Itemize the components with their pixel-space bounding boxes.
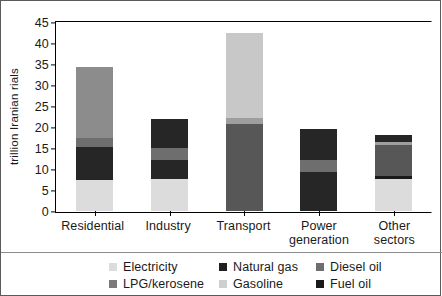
- bar-segment[interactable]: [300, 172, 337, 211]
- bar-segment[interactable]: [375, 145, 412, 176]
- legend-label: Natural gas: [233, 260, 298, 274]
- bar-segment[interactable]: [300, 129, 337, 160]
- legend-label: Diesel oil: [330, 260, 382, 274]
- legend-swatch-icon: [316, 280, 324, 288]
- y-tick-mark: [51, 169, 55, 170]
- bar-segment[interactable]: [76, 147, 113, 181]
- bar-slot: [282, 24, 357, 211]
- y-tick-mark: [51, 106, 55, 107]
- legend-swatch-icon: [219, 263, 227, 271]
- x-axis-label: Industry: [130, 216, 205, 256]
- x-axis-label-line: Residential: [55, 219, 130, 233]
- bar-slot: [356, 24, 431, 211]
- y-tick-mark: [51, 190, 55, 191]
- plot-box: [55, 21, 432, 213]
- x-axis-label-line: generation: [281, 233, 356, 247]
- x-axis-label: Residential: [55, 216, 130, 256]
- legend-item[interactable]: Fuel oil: [316, 277, 371, 291]
- stacked-bar[interactable]: [151, 119, 188, 210]
- stacked-bar[interactable]: [226, 33, 263, 211]
- bar-segment[interactable]: [151, 148, 188, 159]
- y-tick-mark: [51, 22, 55, 23]
- legend-item[interactable]: Electricity: [109, 260, 219, 274]
- bar-segment[interactable]: [151, 119, 188, 148]
- chart-plot-area: 051015202530354045: [55, 21, 432, 213]
- legend-row-2: LPG/keroseneGasolineFuel oil: [1, 275, 442, 292]
- stacked-bar[interactable]: [300, 129, 337, 210]
- bar-segment[interactable]: [76, 138, 113, 147]
- bar-segment[interactable]: [226, 124, 263, 211]
- bar-slot: [132, 24, 207, 211]
- bar-segment[interactable]: [375, 179, 412, 210]
- x-axis-label-line: Other: [357, 219, 432, 233]
- bar-segment[interactable]: [151, 160, 188, 179]
- bar-segment[interactable]: [300, 160, 337, 172]
- legend-label: Electricity: [123, 260, 178, 274]
- x-axis-label-line: Power: [281, 219, 356, 233]
- legend-label: Gasoline: [233, 277, 283, 291]
- y-tick-mark: [51, 64, 55, 65]
- legend-label: LPG/kerosene: [123, 277, 204, 291]
- legend-swatch-icon: [109, 280, 117, 288]
- x-axis-label-line: Industry: [130, 219, 205, 233]
- bar-segment[interactable]: [375, 135, 412, 142]
- y-axis-title-label: trillion Iranian rials: [8, 68, 20, 165]
- stacked-bar[interactable]: [375, 135, 412, 210]
- bar-segment[interactable]: [76, 67, 113, 138]
- legend-label: Fuel oil: [330, 277, 371, 291]
- legend-item[interactable]: LPG/kerosene: [109, 277, 219, 291]
- x-tick-mark: [394, 211, 395, 216]
- bar-slot: [58, 24, 133, 211]
- x-tick-mark: [244, 211, 245, 216]
- plot-inner: [58, 24, 432, 211]
- x-tick-mark: [319, 211, 320, 216]
- y-tick-mark: [51, 85, 55, 86]
- x-axis-label-line: Transport: [206, 219, 281, 233]
- legend-row-1: ElectricityNatural gasDiesel oil: [1, 258, 442, 275]
- y-tick-mark: [51, 148, 55, 149]
- legend-swatch-icon: [316, 263, 324, 271]
- x-axis-label: Transport: [206, 216, 281, 256]
- stacked-bar[interactable]: [76, 67, 113, 211]
- y-tick-mark: [51, 43, 55, 44]
- bar-segment[interactable]: [151, 179, 188, 211]
- legend-item[interactable]: Diesel oil: [316, 260, 382, 274]
- legend-swatch-icon: [219, 280, 227, 288]
- y-tick-mark: [51, 127, 55, 128]
- legend-item[interactable]: Gasoline: [219, 277, 316, 291]
- legend-item[interactable]: Natural gas: [219, 260, 316, 274]
- bar-segment[interactable]: [76, 180, 113, 210]
- legend-swatch-icon: [109, 263, 117, 271]
- x-tick-mark: [95, 211, 96, 216]
- bar-group: [58, 24, 432, 211]
- bar-segment[interactable]: [226, 33, 263, 118]
- x-tick-mark: [170, 211, 171, 216]
- y-tick-mark: [51, 211, 55, 212]
- y-axis-title: trillion Iranian rials: [7, 21, 21, 213]
- x-axis-label-line: sectors: [357, 233, 432, 247]
- x-axis-label: Powergeneration: [281, 216, 356, 256]
- bar-slot: [207, 24, 282, 211]
- x-axis-label: Othersectors: [357, 216, 432, 256]
- chart-legend: ElectricityNatural gasDiesel oil LPG/ker…: [1, 252, 442, 292]
- x-axis-labels: ResidentialIndustryTransportPowergenerat…: [55, 216, 432, 256]
